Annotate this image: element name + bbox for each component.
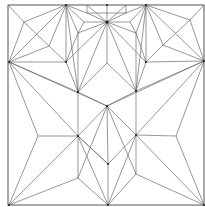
- crease-line: [78, 178, 108, 205]
- vertex-dot: [106, 105, 108, 107]
- crease-line: [108, 135, 136, 205]
- crease-line: [9, 178, 78, 205]
- vertex-dot: [8, 204, 10, 206]
- crease-line: [107, 63, 136, 91]
- crease-line: [9, 136, 38, 205]
- crease-line: [107, 13, 126, 22]
- crease-line: [78, 63, 107, 92]
- crease-line: [66, 22, 107, 62]
- crease-line: [107, 5, 126, 22]
- crease-line: [107, 22, 146, 62]
- vertex-dot: [77, 91, 79, 93]
- crease-line: [107, 91, 136, 106]
- vertex-dot: [65, 4, 67, 6]
- crease-line: [190, 20, 204, 61]
- crease-line: [107, 22, 136, 91]
- crease-line: [78, 92, 107, 106]
- vertex-dot: [135, 90, 137, 92]
- crease-line: [136, 174, 204, 205]
- vertex-dot: [107, 204, 109, 206]
- vertex-dot: [145, 61, 147, 63]
- crease-line: [78, 106, 107, 178]
- vertex-dot: [8, 61, 10, 63]
- crease-line: [9, 46, 49, 62]
- crease-line: [163, 20, 190, 45]
- crease-line: [136, 33, 146, 62]
- vertex-dot: [145, 4, 147, 6]
- crease-line: [107, 106, 108, 164]
- vertex-dot: [106, 4, 108, 6]
- crease-line: [66, 5, 84, 22]
- crease-line: [136, 61, 204, 91]
- crease-line: [146, 5, 163, 45]
- crease-line: [108, 135, 136, 164]
- crease-line: [176, 136, 204, 205]
- crease-line: [49, 46, 66, 62]
- crease-line: [8, 5, 24, 22]
- crease-pattern-diagram: [0, 0, 205, 207]
- vertex-dot: [135, 134, 137, 136]
- crease-line: [163, 45, 204, 61]
- vertex-dot: [77, 135, 79, 137]
- vertex-dot: [203, 60, 205, 62]
- crease-line: [190, 5, 204, 20]
- crease-line: [136, 61, 204, 135]
- crease-line: [136, 135, 176, 136]
- vertex-dot: [105, 20, 108, 23]
- crease-line: [146, 5, 204, 61]
- vertex-dot: [203, 204, 205, 206]
- crease-line: [78, 22, 107, 92]
- crease-line: [126, 5, 146, 13]
- crease-line: [107, 22, 136, 33]
- crease-line: [136, 135, 204, 205]
- crease-line: [87, 13, 107, 22]
- crease-lines: [8, 5, 204, 205]
- crease-line: [9, 5, 66, 62]
- crease-line: [146, 61, 204, 62]
- crease-line: [108, 174, 136, 205]
- crease-line: [78, 22, 107, 33]
- crease-line: [107, 106, 136, 135]
- crease-line: [66, 5, 78, 92]
- crease-line: [146, 5, 190, 20]
- crease-line: [66, 33, 78, 62]
- vertex-dot: [107, 163, 109, 165]
- crease-line: [78, 136, 108, 205]
- crease-line: [130, 5, 146, 22]
- crease-line: [78, 106, 107, 136]
- crease-line: [87, 5, 107, 22]
- crease-line: [9, 62, 78, 136]
- crease-line: [146, 45, 163, 62]
- vertex-dot: [65, 61, 67, 63]
- crease-line: [9, 136, 78, 205]
- crease-line: [9, 22, 24, 62]
